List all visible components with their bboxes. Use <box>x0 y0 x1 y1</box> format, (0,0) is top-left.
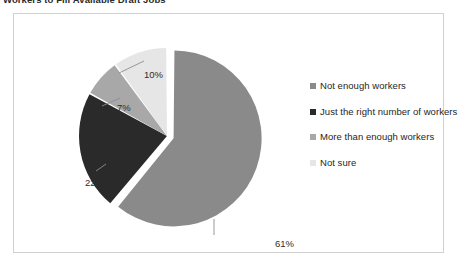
pie-label-not-sure: 10% <box>144 69 163 80</box>
chart-title: Workers to Fill Available Draft Jobs <box>3 0 303 5</box>
chart-legend: Not enough workers Just the right number… <box>310 80 458 182</box>
legend-item-label: Not enough workers <box>320 80 406 92</box>
legend-item-more-than-enough[interactable]: More than enough workers <box>310 131 458 143</box>
legend-item-just-right-number[interactable]: Just the right number of workers <box>310 106 458 118</box>
legend-swatch-icon <box>310 83 316 89</box>
pie-label-not-enough-workers: 61% <box>275 238 294 249</box>
legend-swatch-icon <box>310 160 316 166</box>
legend-swatch-icon <box>310 134 316 140</box>
legend-item-not-sure[interactable]: Not sure <box>310 157 458 169</box>
pie-label-more-than-enough: 7% <box>117 102 131 113</box>
legend-item-not-enough-workers[interactable]: Not enough workers <box>310 80 458 92</box>
legend-item-label: Not sure <box>320 157 356 169</box>
legend-item-label: More than enough workers <box>320 131 434 143</box>
legend-item-label: Just the right number of workers <box>320 106 457 118</box>
pie-chart-area: 61% 22% 7% 10% <box>62 31 272 241</box>
pie-slice-group <box>79 48 262 226</box>
pie-label-just-right-number: 22% <box>85 177 104 188</box>
legend-swatch-icon <box>310 109 316 115</box>
pie-chart-svg <box>62 31 272 241</box>
chart-panel: 61% 22% 7% 10% Not enough workers Just t… <box>13 13 444 253</box>
